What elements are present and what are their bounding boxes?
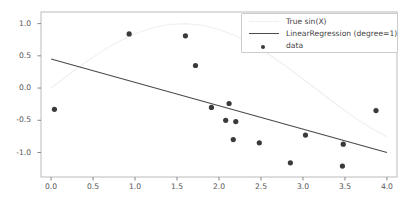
data-point: [257, 140, 262, 145]
data-point: [52, 107, 57, 112]
y-tick-label: -0.5: [5, 115, 31, 124]
legend-line-linear-regression: [249, 33, 279, 34]
regression-line: [51, 59, 387, 152]
x-tick-label: 0.0: [36, 182, 66, 191]
data-point: [193, 63, 198, 68]
legend-line-true-sin: [249, 21, 279, 22]
data-point: [226, 101, 231, 106]
legend-label-linear-regression: LinearRegression (degree=1): [286, 28, 397, 40]
data-point: [209, 105, 214, 110]
x-tick-label: 2.0: [204, 182, 234, 191]
data-point: [233, 119, 238, 124]
y-tick-label: 0.0: [5, 83, 31, 92]
data-point: [303, 133, 308, 138]
x-tick-label: 4.0: [372, 182, 402, 191]
legend-marker-data: [261, 45, 265, 49]
data-point: [340, 163, 345, 168]
y-tick-label: 1.0: [5, 19, 31, 28]
data-point: [127, 31, 132, 36]
x-tick-label: 3.5: [330, 182, 360, 191]
legend-item-linear-regression: LinearRegression (degree=1): [242, 28, 397, 40]
y-tick-label: -1.0: [5, 148, 31, 157]
legend-label-data: data: [286, 40, 303, 52]
legend-item-data: data: [242, 40, 397, 52]
data-point: [223, 118, 228, 123]
x-tick-label: 1.0: [120, 182, 150, 191]
data-point: [341, 142, 346, 147]
chart-figure: True sin(X) LinearRegression (degree=1) …: [0, 0, 405, 203]
y-tick-label: 0.5: [5, 51, 31, 60]
data-point: [231, 137, 236, 142]
legend-label-true-sin: True sin(X): [286, 16, 327, 28]
legend-item-true-sin: True sin(X): [242, 16, 397, 28]
x-tick-label: 1.5: [162, 182, 192, 191]
data-point: [373, 108, 378, 113]
x-tick-label: 3.0: [288, 182, 318, 191]
x-tick-label: 2.5: [246, 182, 276, 191]
data-point: [288, 160, 293, 165]
data-point: [183, 33, 188, 38]
chart-legend: True sin(X) LinearRegression (degree=1) …: [241, 13, 398, 53]
x-tick-label: 0.5: [78, 182, 108, 191]
